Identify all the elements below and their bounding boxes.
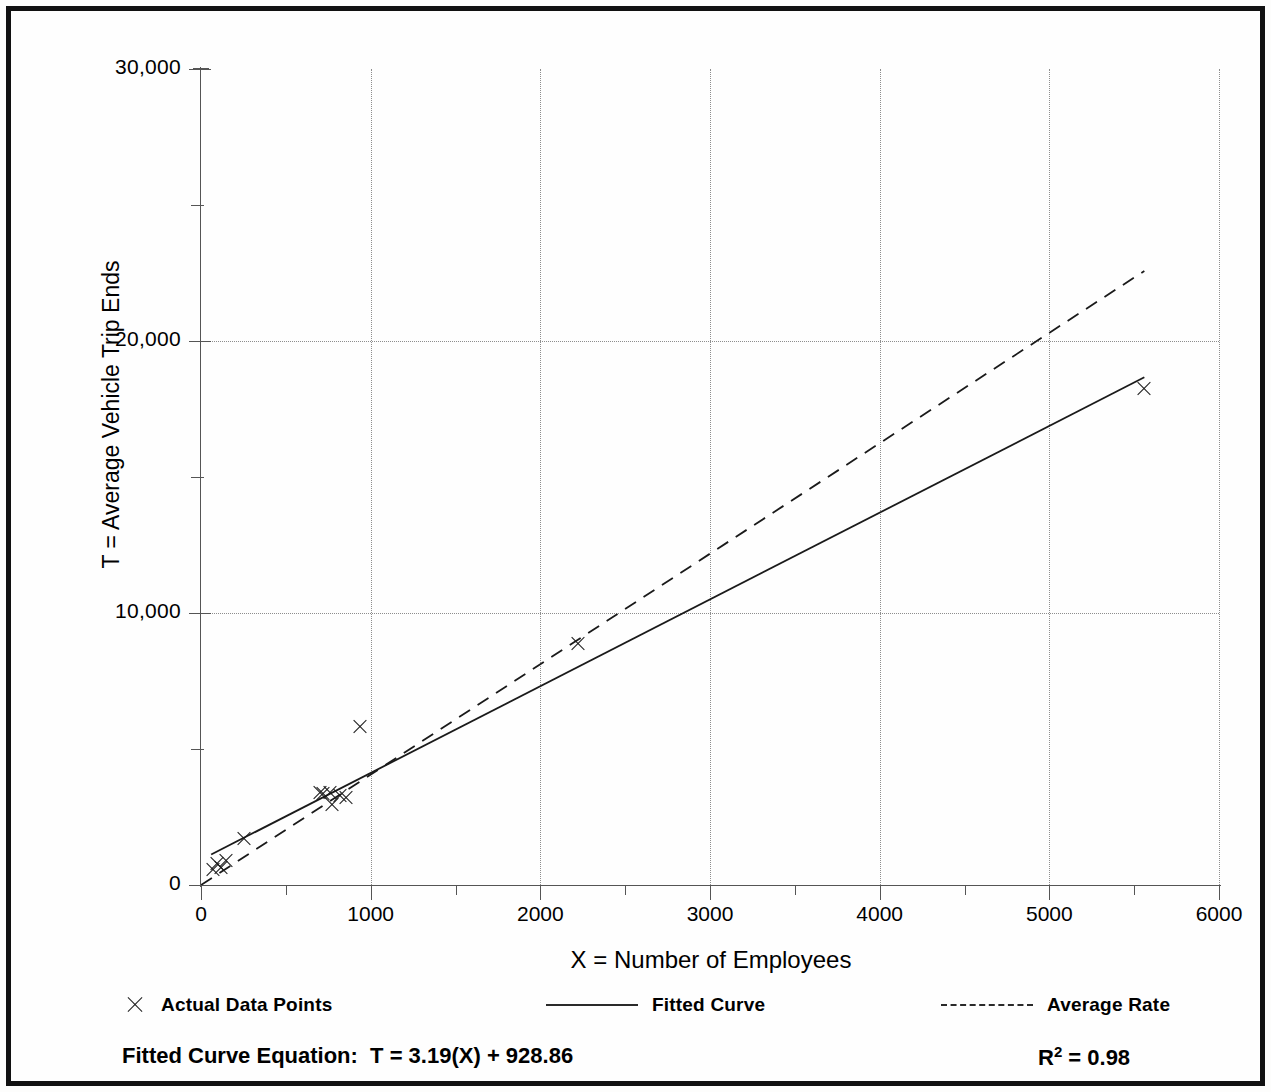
x-marker-icon <box>122 994 148 1016</box>
r-squared-exponent: 2 <box>1054 1043 1062 1060</box>
y-axis-tick-major <box>189 69 211 70</box>
legend-label-average-rate: Average Rate <box>1047 994 1170 1016</box>
r-squared-number: = 0.98 <box>1062 1045 1130 1070</box>
x-axis-tick-major <box>1219 885 1220 900</box>
x-axis-tick-label: 4000 <box>820 902 940 926</box>
x-axis-tick-major <box>710 885 711 900</box>
x-axis-tick-major <box>880 885 881 900</box>
x-axis-tick-label: 3000 <box>650 902 770 926</box>
x-axis-title: X = Number of Employees <box>201 946 1221 974</box>
y-axis-tick-minor <box>191 749 204 750</box>
x-axis-tick-label: 6000 <box>1159 902 1271 926</box>
x-axis-tick-label: 2000 <box>480 902 600 926</box>
x-axis-tick-minor <box>1134 885 1135 895</box>
legend-item-average-rate: Average Rate <box>941 989 1170 1021</box>
y-axis-tick-minor <box>191 205 204 206</box>
chart-frame: 010,00020,00030,000 01000200030004000500… <box>6 6 1265 1086</box>
data-point-marker <box>234 829 254 849</box>
x-axis-tick-minor <box>456 885 457 895</box>
y-axis-title-wrap: T = Average Vehicle Trip Ends <box>69 11 109 951</box>
y-axis-title: T = Average Vehicle Trip Ends <box>98 135 125 695</box>
x-axis-tick-label: 1000 <box>311 902 431 926</box>
x-axis-tick-label: 5000 <box>989 902 1109 926</box>
x-axis-tick-minor <box>286 885 287 895</box>
chart-page: 010,00020,00030,000 01000200030004000500… <box>0 0 1271 1092</box>
x-axis-tick-minor <box>965 885 966 895</box>
x-axis-tick-major <box>201 885 202 900</box>
data-point-marker <box>568 634 588 654</box>
x-axis-tick-minor <box>795 885 796 895</box>
x-axis-tick-major <box>540 885 541 900</box>
legend-label-fitted-curve: Fitted Curve <box>652 994 765 1016</box>
r-squared-value: R2 = 0.98 <box>1038 1043 1130 1071</box>
series-lines <box>201 69 1219 885</box>
gridline-vertical <box>1219 69 1220 885</box>
y-axis-tick-major <box>189 341 211 342</box>
dashed-line-icon <box>941 1004 1033 1006</box>
y-axis-tick-major <box>189 885 211 886</box>
plot-area <box>201 69 1219 885</box>
r-squared-prefix: R <box>1038 1045 1054 1070</box>
solid-line-icon <box>546 1004 638 1006</box>
fitted-curve-equation: Fitted Curve Equation: T = 3.19(X) + 928… <box>122 1043 573 1069</box>
data-point-marker <box>336 788 356 808</box>
equation-row: Fitted Curve Equation: T = 3.19(X) + 928… <box>11 1043 1270 1089</box>
x-axis-tick-minor <box>625 885 626 895</box>
legend-item-actual-data-points: Actual Data Points <box>122 989 332 1021</box>
data-point-marker <box>216 851 236 871</box>
legend-item-fitted-curve: Fitted Curve <box>546 989 765 1021</box>
x-axis-tick-major <box>1049 885 1050 900</box>
fitted-curve-line <box>211 377 1144 854</box>
x-axis-tick-major <box>371 885 372 900</box>
y-axis-tick-major <box>189 613 211 614</box>
x-axis-tick-label: 0 <box>141 902 261 926</box>
legend-label-actual-data-points: Actual Data Points <box>161 994 332 1016</box>
data-point-marker <box>1134 379 1154 399</box>
y-axis-tick-minor <box>191 477 204 478</box>
data-point-marker <box>350 717 370 737</box>
chart-legend: Actual Data Points Fitted Curve Average … <box>11 989 1270 1035</box>
